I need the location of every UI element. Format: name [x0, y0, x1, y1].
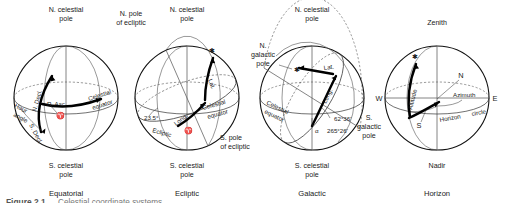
label-obliquity-angle: 23.5°: [144, 114, 159, 121]
label-ra-symbol: α: [315, 127, 319, 134]
label-south-celestial-pole-line2: pole: [59, 171, 72, 179]
label-s-declination: S. Decl.: [28, 122, 44, 145]
panel-horizon: ✱ Zenith Nadir W E N S Altitude Azimuth …: [376, 19, 498, 198]
label-south-celestial-pole-line1: S. celestial: [170, 162, 205, 170]
label-n-galactic-pole-line2: galactic: [251, 51, 276, 59]
label-azimuth: Azimuth: [453, 91, 476, 98]
azimuth-arrowhead: [434, 102, 439, 108]
label-right-ascension: R. Asc.: [47, 100, 67, 107]
figure-caption: Figure 2.1 Celestial coordinate systems: [6, 197, 162, 203]
caption-ecliptic: Ecliptic: [175, 189, 199, 198]
label-south: S: [417, 121, 422, 130]
label-north-celestial-pole-line1: N. celestial: [170, 6, 205, 14]
label-s-galactic-pole-line1: S.: [366, 114, 373, 122]
azimuth-arc: [437, 100, 462, 106]
label-s-galactic-pole-line3: pole: [362, 132, 375, 140]
label-north-celestial-pole-line2: pole: [180, 15, 193, 23]
star-icon: ✱: [294, 66, 300, 74]
star-icon: ✱: [209, 47, 215, 55]
celestial-meridian: [282, 46, 312, 150]
star-icon: ✱: [412, 53, 418, 61]
label-s-galactic-pole-line2: galactic: [357, 123, 382, 131]
label-longitude: Long.: [321, 87, 334, 104]
label-n-pole-ecliptic-line2: of ecliptic: [116, 19, 146, 27]
label-zenith: Zenith: [427, 19, 447, 27]
label-horizon-circle-line2: circle: [471, 107, 487, 116]
label-north-celestial-pole-line2: pole: [305, 15, 318, 23]
celestial-coordinate-systems-figure: N. celestial pole S. celestial pole Hour…: [0, 0, 507, 203]
label-inclination-angle: 62°36': [334, 115, 351, 122]
label-hour-angle-line2: angle: [13, 111, 30, 125]
label-latitude: Lat.: [207, 78, 217, 90]
label-vernal-equinox-aries-symbol: ♈: [56, 111, 65, 120]
label-latitude: Lat.: [323, 63, 334, 71]
figure-caption-number: Figure 2.1: [6, 197, 46, 203]
label-s-pole-ecliptic-line1: S. pole: [220, 134, 242, 142]
panel-equatorial: N. celestial pole S. celestial pole Hour…: [13, 6, 118, 198]
label-vernal-equinox-aries-symbol: ♈: [184, 126, 193, 135]
caption-galactic: Galactic: [298, 189, 326, 198]
label-north: N: [458, 71, 463, 80]
label-east: E: [493, 94, 498, 103]
label-north-celestial-pole-line1: N. celestial: [49, 6, 84, 14]
caption-equatorial: Equatorial: [49, 189, 84, 198]
label-s-pole-ecliptic-line2: of ecliptic: [220, 143, 250, 151]
caption-horizon: Horizon: [424, 189, 450, 198]
label-south-celestial-pole-line2: pole: [305, 171, 318, 179]
figure-caption-text: Celestial coordinate systems: [58, 198, 162, 203]
label-n-galactic-pole-line3: pole: [256, 60, 269, 68]
label-north-celestial-pole-line2: pole: [59, 15, 72, 23]
label-south-celestial-pole-line1: S. celestial: [49, 162, 84, 170]
label-celestial-equator-line2: equator: [206, 107, 228, 120]
label-west: W: [376, 94, 383, 103]
n-galactic-pole-leader: [279, 65, 292, 69]
label-n-pole-ecliptic-line1: N. pole: [120, 10, 143, 18]
ecliptic-front: [138, 80, 241, 131]
label-ra-value: 265°26': [327, 127, 348, 134]
label-nadir: Nadir: [429, 162, 447, 170]
hour-circle-left: [44, 46, 66, 150]
label-n-galactic-pole-line1: N.: [259, 42, 266, 50]
label-north-celestial-pole-line1: N. celestial: [295, 6, 330, 14]
label-south-celestial-pole-line2: pole: [180, 171, 193, 179]
panel-galactic: ✱ N. celestial pole N. galactic pole S. …: [251, 0, 382, 198]
label-south-celestial-pole-line1: S. celestial: [295, 162, 330, 170]
panel-ecliptic: ✱ N. celestial pole N. pole of ecliptic …: [116, 6, 250, 198]
label-ecliptic: Ecliptic: [152, 126, 173, 138]
